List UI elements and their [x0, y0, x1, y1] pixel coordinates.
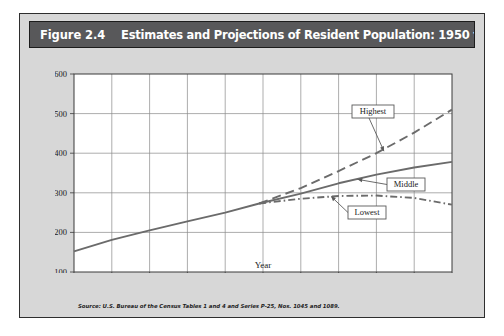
chart-plot-area: 100200300400500600 195019601970198019902…: [55, 61, 453, 273]
figure-root: Figure 2.4 Estimates and Projections of …: [0, 0, 504, 336]
callout-label: Highest: [360, 106, 387, 116]
y-axis-tick-label: 600: [55, 69, 67, 79]
source-note: Source: U.S. Bureau of the Census Tables…: [78, 303, 340, 309]
y-axis-tick-labels: 100200300400500600: [55, 69, 67, 273]
y-axis-tick-label: 500: [55, 109, 67, 119]
figure-number: Figure 2.4: [40, 28, 105, 42]
y-axis-tick-label: 400: [55, 148, 67, 158]
population-line-chart: 100200300400500600 195019601970198019902…: [55, 61, 453, 273]
callout-label: Middle: [394, 179, 419, 189]
y-axis-tick-label: 300: [55, 188, 67, 198]
y-axis-tick-label: 100: [55, 267, 67, 273]
callout-label: Lowest: [354, 207, 380, 217]
y-axis-tick-label: 200: [55, 227, 67, 237]
figure-title: Estimates and Projections of Resident Po…: [121, 28, 475, 42]
figure-title-banner: Figure 2.4 Estimates and Projections of …: [29, 21, 475, 48]
x-axis-title: Year: [255, 260, 272, 270]
